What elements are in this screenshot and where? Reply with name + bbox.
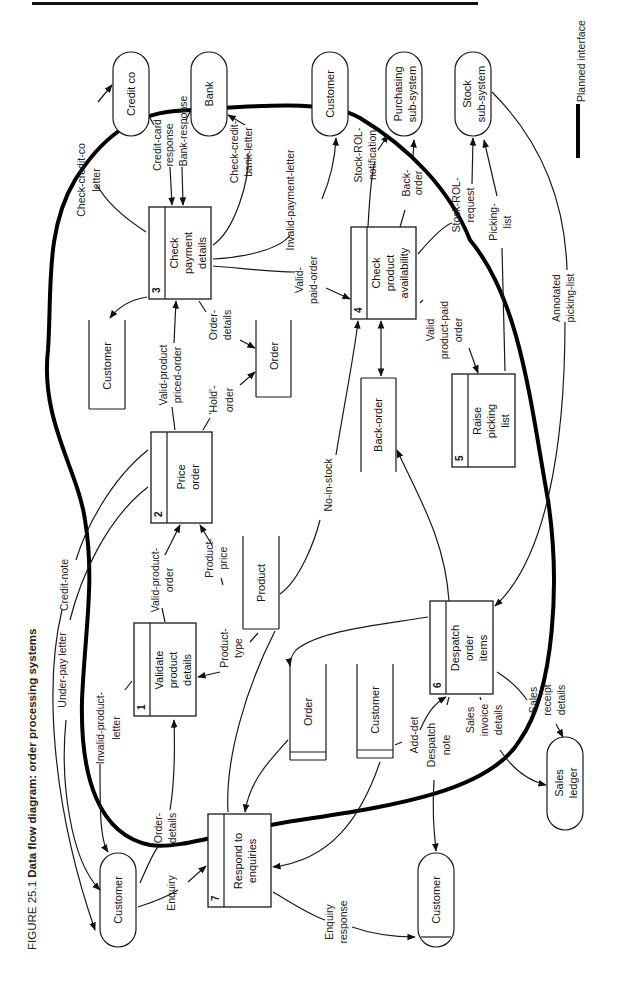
svg-text:order: order	[463, 635, 475, 661]
flow-label-sales-receipt-details: Sales	[527, 687, 539, 713]
svg-text:FIGURE 25.1 Data flow diagram:: FIGURE 25.1 Data flow diagram: order pro…	[26, 629, 38, 950]
svg-text:price: price	[217, 546, 229, 569]
svg-text:picking-list: picking-list	[564, 273, 576, 322]
svg-text:payment: payment	[182, 232, 194, 274]
svg-text:order: order	[223, 387, 235, 412]
svg-text:3: 3	[151, 287, 162, 293]
svg-text:2: 2	[153, 511, 164, 517]
store-customer-top: Customer	[89, 320, 125, 409]
entity-sales-ledger: Sales ledger	[547, 737, 583, 830]
process-1-validate-product-details: 1 Validate product details	[134, 623, 196, 716]
store-product: Product	[243, 536, 279, 629]
svg-text:product: product	[167, 652, 179, 689]
flow-label-product-price: Product-	[203, 538, 215, 578]
flow-label-sales-invoice-details: Sales	[464, 707, 476, 733]
svg-text:product: product	[384, 255, 396, 292]
svg-text:bank-letter: bank-letter	[242, 127, 254, 177]
entity-customer-top: Customer	[312, 52, 348, 136]
flow-label-annotated-picking-list: Annotated	[550, 274, 562, 322]
svg-text:details: details	[492, 705, 504, 735]
svg-text:request: request	[464, 187, 476, 222]
svg-text:Customer: Customer	[324, 70, 336, 118]
flow-label-valid-paid-order: Valid-	[293, 266, 305, 293]
flow-label-credit-card-response: Credit-card	[151, 119, 163, 171]
svg-text:Credit co: Credit co	[125, 72, 137, 116]
svg-text:order: order	[163, 567, 175, 592]
flow-label-back-order: Back-	[400, 169, 412, 196]
flow-label-check-credit-bank-letter: Check-credit-	[228, 120, 240, 183]
svg-text:Stock: Stock	[461, 80, 473, 108]
flow-label-stock-rol-request: Stock-ROL-	[450, 177, 462, 232]
svg-text:Check: Check	[168, 237, 180, 269]
svg-text:items: items	[477, 634, 489, 661]
svg-text:details: details	[181, 654, 193, 686]
flow-label-order-details: Order-	[207, 309, 219, 340]
svg-text:Respond to: Respond to	[232, 833, 244, 889]
svg-text:availability: availability	[398, 247, 410, 298]
entity-customer-bottom: Customer	[418, 853, 454, 947]
svg-text:4: 4	[353, 307, 364, 313]
entity-credit-co: Credit co	[113, 52, 149, 136]
flow-label-add-det: Add-det	[408, 717, 420, 754]
flow-label-check-credit-co-letter: Check-credit-co	[75, 143, 87, 217]
svg-text:product-paid: product-paid	[438, 301, 450, 360]
process-6-despatch-order-items: 6 Despatch order items	[430, 601, 493, 694]
svg-text:Customer: Customer	[112, 876, 124, 924]
flow-label-picking-list: Picking-	[487, 203, 499, 241]
flow-label-under-pay-letter: Under-pay letter	[56, 632, 68, 708]
flow-label-valid-product-priced-order: Valid-product	[157, 344, 169, 405]
svg-text:Customer: Customer	[369, 686, 381, 734]
svg-text:7: 7	[210, 895, 221, 901]
flow-label-product-type: Product-	[218, 628, 230, 668]
svg-text:type: type	[232, 638, 244, 658]
svg-text:list: list	[499, 414, 511, 427]
flow-label-order-details-left: Order-	[152, 812, 164, 843]
entity-bank: Bank	[191, 52, 227, 136]
svg-text:Product: Product	[255, 564, 267, 602]
svg-text:sub-system: sub-system	[475, 66, 487, 122]
svg-text:Back-order: Back-order	[372, 398, 384, 452]
svg-text:Order: Order	[268, 342, 280, 370]
svg-text:details: details	[196, 237, 208, 269]
svg-text:Bank: Bank	[203, 81, 215, 107]
svg-text:1: 1	[136, 704, 147, 710]
svg-text:picking: picking	[485, 404, 497, 438]
svg-text:invoice: invoice	[478, 703, 490, 736]
process-4-check-product-availability: 4 Check product availability	[351, 227, 416, 319]
legend-label: Planned interface	[575, 20, 587, 102]
flow-label-bank-response: Bank-response	[177, 96, 189, 167]
svg-text:letter: letter	[110, 716, 122, 740]
store-back-order: Back-order	[361, 378, 396, 472]
svg-text:Validate: Validate	[153, 651, 165, 690]
svg-text:Customer: Customer	[430, 876, 442, 924]
svg-text:list: list	[501, 216, 513, 229]
svg-text:letter: letter	[90, 168, 102, 192]
entity-purchasing-subsystem: Purchasing sub-system	[386, 52, 422, 136]
svg-text:Price: Price	[175, 464, 187, 489]
svg-text:enquiries: enquiries	[246, 838, 258, 883]
svg-text:Raise: Raise	[471, 407, 483, 435]
header-rule	[32, 2, 478, 5]
legend-line	[576, 104, 580, 158]
process-2-price-order: 2 Price order	[151, 432, 212, 523]
svg-text:order: order	[452, 317, 464, 342]
figure-caption: FIGURE 25.1 Data flow diagram: order pro…	[26, 629, 38, 950]
data-flow-diagram: Planned interface FIGURE 25.1 Data flow …	[0, 0, 622, 996]
process-5-raise-picking-list: 5 Raise picking list	[452, 374, 515, 467]
svg-text:Purchasing: Purchasing	[392, 66, 404, 121]
store-order-top: Order	[256, 320, 291, 397]
svg-text:6: 6	[432, 682, 443, 688]
svg-text:details: details	[166, 813, 178, 843]
process-3-check-payment-details: 3 Check payment details	[149, 207, 211, 299]
svg-text:Order: Order	[302, 698, 314, 726]
svg-text:notification: notification	[366, 130, 378, 180]
figure-number: FIGURE 25.1	[26, 881, 38, 950]
svg-text:Customer: Customer	[101, 342, 113, 390]
svg-text:sub-system: sub-system	[406, 66, 418, 122]
svg-text:order: order	[189, 464, 201, 490]
svg-text:response: response	[163, 123, 175, 166]
flow-label-valid-product-paid-order: Valid	[424, 319, 436, 342]
store-order-bottom: Order	[290, 664, 326, 760]
svg-text:order: order	[412, 170, 424, 195]
flow-label-enquiry: Enquiry	[165, 874, 177, 910]
